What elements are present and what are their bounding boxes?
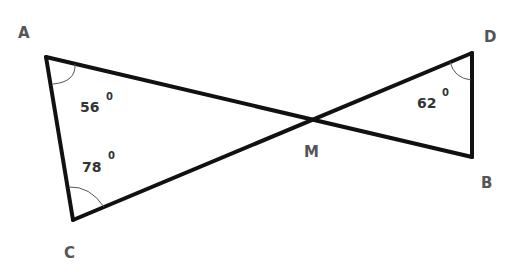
segment-ac: [46, 57, 73, 220]
angle-arc-d: [450, 62, 471, 80]
vertex-label-d: D: [484, 28, 496, 46]
angle-value-d: 62: [417, 95, 436, 111]
angle-value-c: 78: [82, 159, 101, 175]
angle-arc-a: [53, 64, 75, 84]
degree-symbol-a: 0: [106, 91, 113, 102]
angle-value-a: 56: [80, 99, 99, 115]
vertex-label-b: B: [481, 174, 492, 192]
angle-arc-c: [69, 187, 104, 207]
degree-symbol-c: 0: [108, 150, 115, 161]
degree-symbol-d: 0: [442, 87, 449, 98]
geometry-diagram: A D M B C 56 0 78 0 62 0: [0, 0, 523, 272]
vertex-label-c: C: [64, 244, 75, 262]
vertex-label-a: A: [18, 24, 30, 42]
vertex-label-m: M: [304, 143, 319, 161]
